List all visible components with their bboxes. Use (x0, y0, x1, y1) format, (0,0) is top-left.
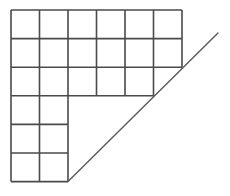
grid-cell (11, 10, 40, 39)
grid-cell (97, 39, 126, 68)
grid-cell (40, 39, 69, 68)
grid-cell (11, 124, 40, 153)
grid-cell (68, 39, 97, 68)
grid-cell (11, 153, 40, 182)
grid-cell (125, 10, 154, 39)
grid-cell (11, 67, 40, 96)
grid-cell (68, 67, 97, 96)
grid-cell (40, 124, 69, 153)
grid-cell (11, 96, 40, 125)
grid-cell (11, 39, 40, 68)
grid-cell (125, 39, 154, 68)
grid-cell (40, 96, 69, 125)
grid-cell (40, 10, 69, 39)
figure-canvas (0, 0, 230, 196)
grid-cell (154, 10, 183, 39)
staircase-polyomino-diagram (0, 0, 230, 196)
grid-cell (97, 10, 126, 39)
grid-cell (68, 10, 97, 39)
grid-cell (125, 67, 154, 96)
grid-cell (154, 39, 183, 68)
grid-cell (40, 67, 69, 96)
grid-cell (97, 67, 126, 96)
grid-cell (40, 153, 69, 182)
